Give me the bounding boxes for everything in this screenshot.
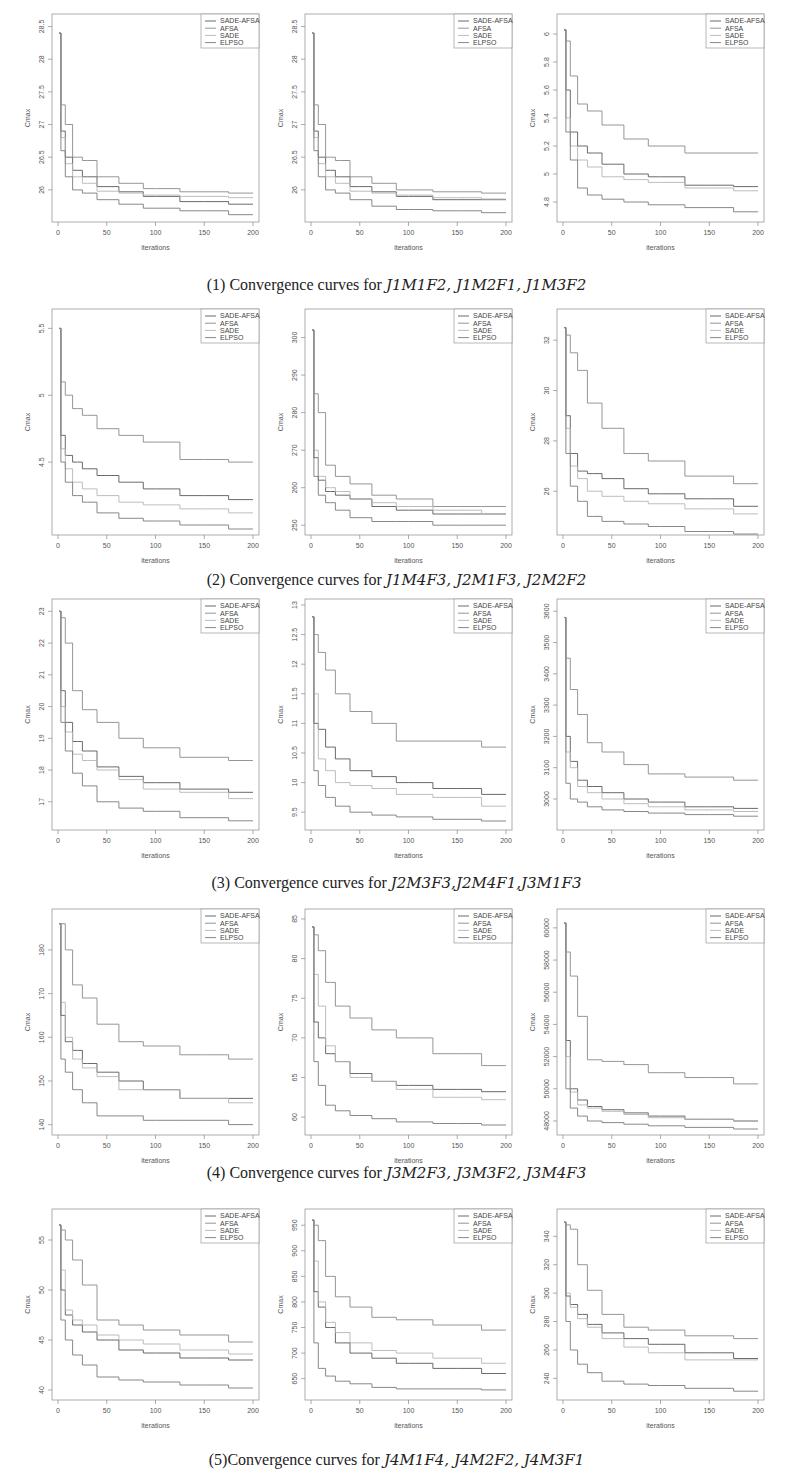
plot-frame (52, 599, 259, 830)
y-tick-label: 5.4 (543, 113, 550, 123)
series-line-elpso (312, 1220, 506, 1390)
caption-instances: J4M1F4, J4M2F2, J4M3F1 (384, 1451, 584, 1469)
x-tick-label: 0 (56, 542, 60, 549)
series-line-sade-afsa (59, 924, 253, 1099)
x-axis-label: iterations (646, 1157, 675, 1164)
y-tick-label: 280 (291, 407, 298, 419)
chart-J1M3F2: 0501001502004.855.25.45.65.86iterationsC… (527, 0, 772, 262)
y-tick-label: 700 (291, 1347, 298, 1359)
y-tick-label: 3500 (543, 635, 550, 651)
y-tick-label: 11.5 (291, 687, 298, 700)
y-tick-label: 20 (38, 703, 45, 711)
x-tick-label: 200 (247, 229, 259, 236)
legend-entry: ELPSO (473, 934, 497, 941)
y-tick-label: 27.5 (291, 85, 298, 99)
y-tick-label: 650 (291, 1373, 298, 1385)
chart-J4M2F2: 050100150200650700750800850900950iterati… (275, 1195, 520, 1440)
y-tick-label: 270 (291, 444, 298, 456)
series-line-sade (312, 330, 506, 514)
x-tick-label: 100 (403, 1407, 415, 1414)
y-tick-label: 28 (543, 437, 550, 445)
x-tick-label: 0 (309, 1142, 313, 1149)
x-tick-label: 150 (703, 1407, 715, 1414)
x-tick-label: 50 (608, 837, 616, 844)
y-tick-label: 150 (38, 1075, 45, 1087)
x-tick-label: 0 (561, 1407, 565, 1414)
legend-entry: AFSA (725, 920, 744, 927)
y-tick-label: 13 (291, 601, 298, 609)
legend-entry: AFSA (725, 610, 744, 617)
legend-entry: ELPSO (473, 624, 497, 631)
series-line-afsa (564, 923, 758, 1084)
y-tick-label: 4.5 (38, 457, 45, 467)
legend-entry: AFSA (473, 1220, 492, 1227)
y-tick-label: 5.5 (38, 323, 45, 333)
y-tick-label: 26 (291, 186, 298, 194)
series-line-sade-afsa (564, 618, 758, 809)
legend-entry: AFSA (220, 610, 239, 617)
y-tick-label: 3200 (543, 729, 550, 745)
legend-entry: AFSA (473, 320, 492, 327)
series-line-elpso (564, 1222, 758, 1391)
x-tick-label: 150 (451, 542, 463, 549)
y-axis-label: Cmax (529, 1295, 536, 1314)
caption-prefix: (2) Convergence curves for (207, 571, 386, 588)
x-tick-label: 200 (500, 1407, 512, 1414)
y-tick-label: 250 (291, 519, 298, 531)
x-tick-label: 100 (150, 542, 162, 549)
y-tick-label: 28.5 (291, 20, 298, 34)
x-tick-label: 150 (198, 1142, 210, 1149)
y-tick-label: 75 (291, 994, 298, 1002)
series-line-sade (59, 328, 253, 513)
x-tick-label: 100 (150, 837, 162, 844)
series-line-sade-afsa (312, 330, 506, 514)
x-tick-label: 50 (103, 542, 111, 549)
y-tick-label: 70 (291, 1034, 298, 1042)
legend-entry: SADE-AFSA (473, 602, 513, 609)
x-tick-label: 0 (56, 1407, 60, 1414)
legend-entry: ELPSO (220, 624, 244, 631)
series-line-sade (564, 923, 758, 1121)
legend-entry: SADE (473, 32, 492, 39)
legend-entry: SADE-AFSA (220, 312, 260, 319)
chart-J2M1F3: 050100150200250260270280290300iterations… (275, 295, 520, 575)
y-tick-label: 280 (543, 1316, 550, 1328)
y-tick-label: 9.5 (291, 807, 298, 817)
y-tick-label: 5.2 (543, 141, 550, 151)
x-tick-label: 200 (247, 542, 259, 549)
y-tick-label: 28 (38, 55, 45, 63)
legend-entry: ELPSO (725, 1234, 749, 1241)
x-tick-label: 200 (500, 837, 512, 844)
x-tick-label: 50 (356, 1142, 364, 1149)
series-line-sade-afsa (564, 30, 758, 187)
legend-entry: SADE (725, 1227, 744, 1234)
x-tick-label: 150 (703, 229, 715, 236)
chart-J4M1F4: 05010015020040455055iterationsCmaxSADE-A… (22, 1195, 267, 1440)
legend-entry: ELPSO (220, 39, 244, 46)
series-line-afsa (59, 328, 253, 462)
y-axis-label: Cmax (277, 1012, 284, 1031)
x-tick-label: 200 (752, 1142, 764, 1149)
x-tick-label: 100 (150, 229, 162, 236)
legend-entry: ELPSO (220, 934, 244, 941)
y-tick-label: 950 (291, 1219, 298, 1231)
legend-entry: SADE (473, 617, 492, 624)
x-axis-label: iterations (394, 852, 423, 859)
y-tick-label: 240 (543, 1372, 550, 1384)
x-tick-label: 150 (703, 542, 715, 549)
y-tick-label: 3300 (543, 697, 550, 713)
x-axis-label: iterations (394, 244, 423, 251)
x-tick-label: 200 (500, 1142, 512, 1149)
caption-prefix: (3) Convergence curves for (212, 874, 391, 891)
legend-entry: AFSA (220, 25, 239, 32)
y-tick-label: 22 (38, 639, 45, 647)
legend-entry: SADE-AFSA (725, 17, 765, 24)
legend-entry: SADE (473, 927, 492, 934)
y-tick-label: 180 (38, 944, 45, 956)
legend-entry: AFSA (725, 320, 744, 327)
x-tick-label: 50 (356, 229, 364, 236)
legend-entry: SADE (473, 1227, 492, 1234)
chart-J3M2F3: 050100150200140150160170180iterationsCma… (22, 895, 267, 1175)
y-tick-label: 320 (543, 1259, 550, 1271)
legend-entry: SADE (725, 617, 744, 624)
